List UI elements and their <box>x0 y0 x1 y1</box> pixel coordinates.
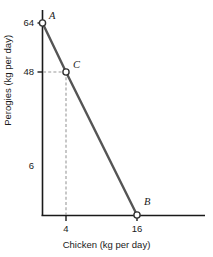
y-axis-title: Perogies (kg per day) <box>3 110 13 126</box>
y-tick-label-6: 6 <box>12 161 34 171</box>
data-point-c-marker <box>63 69 69 75</box>
data-point-label-b: B <box>144 197 150 208</box>
data-point-label-a: A <box>49 11 55 22</box>
data-point-b-marker <box>134 212 140 218</box>
x-tick-label-4: 4 <box>58 224 74 234</box>
data-point-a-marker <box>39 20 45 26</box>
ppf-line <box>43 23 138 215</box>
y-tick-label-48: 48 <box>12 67 34 77</box>
chart-figure: 64 48 6 4 16 A C B Chicken (kg per day) … <box>0 0 213 257</box>
data-point-label-c: C <box>73 60 80 71</box>
chart-plot-area <box>0 0 213 257</box>
x-axis-title: Chicken (kg per day) <box>0 240 213 250</box>
y-tick-label-64: 64 <box>12 18 34 28</box>
x-tick-label-16: 16 <box>128 224 146 234</box>
